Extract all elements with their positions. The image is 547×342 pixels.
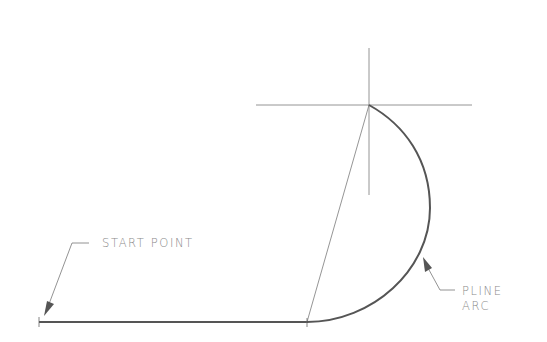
start-point-leader	[49, 243, 89, 304]
chord-line	[307, 105, 369, 322]
pline-arc-leader	[428, 268, 455, 290]
pline-arc-label-line1: PLINE	[462, 284, 503, 298]
pline-arc-arrowhead	[423, 257, 432, 272]
start-point-label: START POINT	[102, 236, 194, 250]
start-point-arrowhead	[44, 301, 54, 316]
pline-arc	[307, 105, 430, 322]
pline-arc-label-line2: ARC	[462, 299, 490, 313]
